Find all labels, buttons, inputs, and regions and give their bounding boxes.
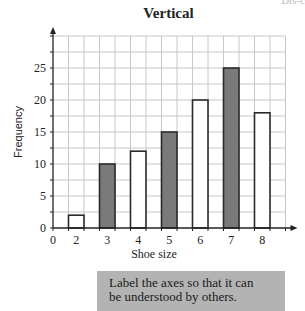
bar-size-5 (162, 132, 178, 228)
bar-size-2 (69, 215, 85, 228)
bar-size-3 (100, 164, 116, 228)
y-tick-15: 15 (34, 125, 46, 139)
x-tick-labels: 02345678 (50, 233, 265, 247)
y-tick-10: 10 (34, 157, 46, 171)
x-tick-0: 0 (50, 233, 56, 247)
instruction-callout: Label the axes so that it can be underst… (97, 271, 285, 311)
x-tick-2: 2 (73, 233, 79, 247)
y-axis-label: Frequency (12, 106, 24, 158)
x-tick-6: 6 (197, 233, 203, 247)
y-tick-labels: 0510152025 (34, 61, 46, 235)
y-tick-25: 25 (34, 61, 46, 75)
x-axis-label: Shoe size (131, 247, 177, 261)
bar-size-8 (255, 113, 271, 228)
y-tick-5: 5 (40, 189, 46, 203)
x-tick-4: 4 (135, 233, 141, 247)
x-tick-5: 5 (166, 233, 172, 247)
x-tick-3: 3 (104, 233, 110, 247)
callout-line-1: Label the axes so that it can (109, 276, 285, 290)
bar-size-7 (224, 68, 240, 228)
y-tick-0: 0 (40, 221, 46, 235)
callout-line-2: be understood by others. (109, 290, 285, 304)
x-tick-7: 7 (228, 233, 234, 247)
y-tick-20: 20 (34, 93, 46, 107)
bar-chart: 0510152025 02345678 Frequency Shoe size (0, 0, 299, 270)
bar-size-6 (193, 100, 209, 228)
bar-size-4 (131, 151, 147, 228)
x-tick-8: 8 (259, 233, 265, 247)
